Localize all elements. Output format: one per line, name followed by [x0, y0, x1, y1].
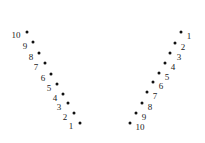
- right-branch-series: 12345678910: [0, 0, 205, 143]
- data-point: [158, 72, 161, 75]
- data-point: [180, 31, 183, 34]
- data-point: [135, 112, 138, 115]
- data-point-label: 2: [181, 43, 186, 52]
- data-point-label: 4: [171, 63, 176, 72]
- data-point: [164, 62, 167, 65]
- data-point-label: 7: [153, 92, 158, 101]
- dot-pattern-canvas: 12345678910 12345678910: [0, 0, 205, 143]
- data-point-label: 9: [142, 113, 147, 122]
- data-point-label: 6: [159, 82, 164, 91]
- data-point: [141, 102, 144, 105]
- data-point: [174, 42, 177, 45]
- data-point-label: 10: [136, 123, 145, 132]
- data-point-label: 5: [165, 73, 170, 82]
- data-point: [152, 81, 155, 84]
- data-point-label: 3: [177, 53, 182, 62]
- data-point: [129, 122, 132, 125]
- data-point: [146, 91, 149, 94]
- data-point: [169, 52, 172, 55]
- data-point-label: 1: [187, 32, 192, 41]
- data-point-label: 8: [148, 103, 153, 112]
